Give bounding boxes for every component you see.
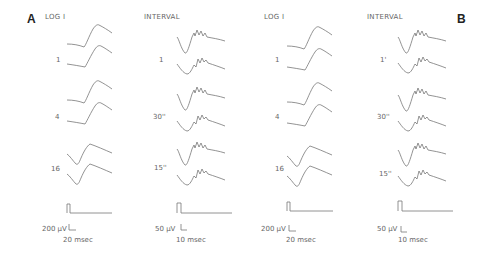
stimulus-pulse bbox=[177, 203, 232, 213]
trace-group-a-log-1 bbox=[67, 25, 112, 67]
scale-bar bbox=[401, 226, 407, 232]
trace-group-b-log-1 bbox=[287, 27, 332, 70]
trace-group-a-int-1 bbox=[177, 30, 225, 74]
scale-bar bbox=[289, 225, 296, 231]
trace-group-b-int-15 bbox=[398, 143, 446, 186]
stimulus-pulse bbox=[67, 204, 112, 213]
stimulus-pulse bbox=[398, 201, 453, 211]
trace-group-b-int-1 bbox=[398, 30, 446, 73]
stimulus-pulse bbox=[287, 202, 333, 211]
trace-group-b-log-4 bbox=[287, 83, 332, 126]
trace-group-b-log-16 bbox=[287, 146, 332, 186]
trace-group-a-int-30 bbox=[177, 87, 225, 131]
scale-bar bbox=[181, 224, 187, 230]
trace-group-a-int-15 bbox=[177, 142, 225, 185]
trace-group-a-log-16 bbox=[67, 144, 112, 184]
trace-group-a-log-4 bbox=[67, 81, 112, 124]
trace-group-b-int-30 bbox=[398, 88, 446, 131]
evoked-potential-traces bbox=[0, 0, 483, 260]
scale-bar bbox=[69, 224, 76, 230]
